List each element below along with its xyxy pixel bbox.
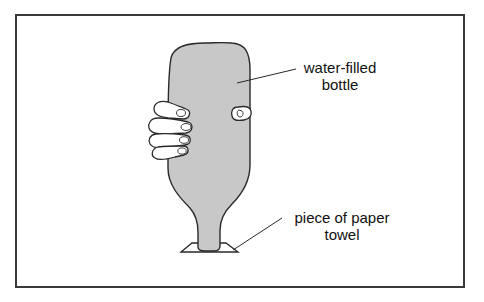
bottle-label-line2: bottle <box>300 76 380 93</box>
towel-label-line1: piece of paper <box>282 209 402 226</box>
bottle-label: water-filled bottle <box>300 59 380 93</box>
bottle-label-line1: water-filled <box>300 59 380 76</box>
towel-label-line2: towel <box>282 226 402 243</box>
diagram-illustration <box>0 0 484 302</box>
towel-leader-line <box>233 218 282 250</box>
fingers-shape <box>149 101 192 159</box>
towel-label: piece of paper towel <box>282 209 402 243</box>
thumb-shape <box>232 106 252 120</box>
